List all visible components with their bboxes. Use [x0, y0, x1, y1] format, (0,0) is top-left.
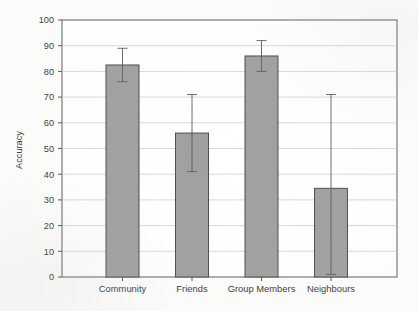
accuracy-bar-chart: 0102030405060708090100 CommunityFriendsG… [0, 0, 418, 311]
x-axis-category-labels: CommunityFriendsGroup MembersNeighbours [99, 283, 355, 294]
y-tick-label: 0 [49, 272, 54, 282]
x-tick-label: Community [99, 283, 147, 294]
y-tick-label: 50 [44, 144, 54, 154]
bar [245, 56, 278, 277]
y-tick-label: 100 [39, 15, 54, 25]
y-tick-label: 80 [44, 67, 54, 77]
x-tick-label: Neighbours [307, 283, 355, 294]
y-tick-label: 10 [44, 247, 54, 257]
y-tick-label: 30 [44, 195, 54, 205]
y-axis-title: Accuracy [14, 131, 24, 169]
bar [106, 65, 139, 277]
y-tick-label: 90 [44, 41, 54, 51]
bar-chart-figure: 0102030405060708090100 CommunityFriendsG… [0, 0, 418, 311]
y-tick-label: 40 [44, 170, 54, 180]
x-tick-label: Group Members [228, 283, 296, 294]
y-tick-label: 70 [44, 92, 54, 102]
y-tick-label: 60 [44, 118, 54, 128]
x-tick-label: Friends [176, 283, 208, 294]
y-tick-label: 20 [44, 221, 54, 231]
